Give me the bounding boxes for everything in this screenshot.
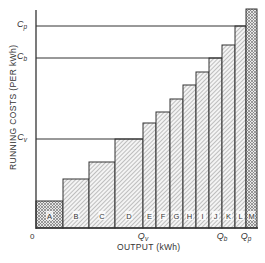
bar-label-l: L [238, 212, 242, 221]
y-marker-c-p: Cp [17, 19, 28, 31]
bar-label-c: C [99, 212, 105, 221]
y-axis-title: RUNNING COSTS (PER kWh) [8, 60, 18, 170]
y-marker-c-v: Cv [17, 132, 28, 143]
bar-l [235, 26, 246, 228]
running-costs-chart: ABCDEFGHIJKLM CpCbCvQvQbQp [0, 0, 265, 263]
bar-i [196, 72, 209, 228]
bar-g [170, 99, 183, 228]
bar-label-a: A [47, 212, 52, 221]
bar-label-h: H [187, 212, 192, 221]
x-marker-q-v: Qv [138, 231, 149, 242]
x-axis-title: OUTPUT (kWh) [117, 242, 180, 252]
bar-label-e: E [147, 212, 152, 221]
bar-label-m: M [248, 212, 254, 221]
bar-label-i: I [201, 212, 203, 221]
bar-k [222, 45, 235, 228]
origin-label: 0 [30, 232, 34, 241]
bar-label-k: K [226, 212, 231, 221]
x-marker-q-p: Qp [241, 231, 252, 243]
bar-label-f: F [161, 212, 166, 221]
bar-j [209, 58, 222, 228]
bar-f [156, 112, 170, 228]
bar-label-j: J [214, 212, 218, 221]
bar-label-g: G [174, 212, 180, 221]
bar-label-d: D [126, 212, 132, 221]
bar-m [246, 9, 257, 228]
bar-h [183, 85, 196, 228]
x-marker-q-b: Qb [217, 231, 228, 242]
bars-group: ABCDEFGHIJKLM [36, 9, 257, 228]
y-marker-c-b: Cb [17, 51, 28, 62]
bar-label-b: B [73, 212, 78, 221]
